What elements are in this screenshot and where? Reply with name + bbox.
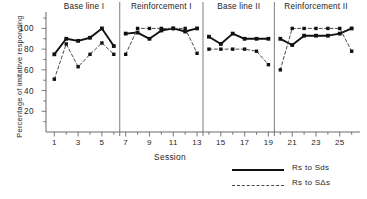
legend-entry-rs-to-sds: Rs to Sds — [232, 163, 364, 178]
data-point-marker — [279, 68, 282, 71]
data-point-marker — [124, 32, 128, 36]
series-line-rs-to-sdeltas — [209, 49, 268, 65]
data-point-marker — [136, 31, 140, 35]
data-point-marker — [160, 27, 163, 30]
data-point-marker — [207, 47, 210, 50]
data-point-marker — [148, 37, 152, 41]
phase-label: Base line I — [64, 2, 104, 11]
phase-label: Base line II — [217, 2, 260, 11]
data-point-marker — [267, 63, 270, 66]
data-point-marker — [302, 27, 305, 30]
data-point-marker — [53, 77, 56, 80]
data-point-marker — [100, 27, 104, 31]
data-point-marker — [88, 53, 91, 56]
data-point-marker — [207, 35, 211, 39]
phase-label: Reinforcement I — [131, 2, 192, 11]
data-point-marker — [100, 41, 103, 44]
data-point-marker — [231, 47, 234, 50]
chart-figure: Percentage of imitative responding 20406… — [0, 0, 367, 199]
legend-label-rs-to-sdeltas: Rs to SΔs — [292, 178, 330, 187]
data-point-marker — [183, 27, 186, 30]
data-point-marker — [290, 43, 294, 47]
legend-swatch-solid-line — [232, 169, 284, 174]
data-point-marker — [243, 37, 247, 41]
legend-label-rs-to-sds: Rs to Sds — [292, 163, 329, 172]
series-line-rs-to-sdeltas — [54, 43, 113, 79]
data-point-marker — [52, 52, 56, 56]
chart-legend: Rs to Sds Rs to SΔs — [232, 163, 364, 193]
data-point-marker — [172, 27, 175, 30]
data-point-marker — [148, 27, 151, 30]
data-point-marker — [195, 27, 199, 31]
data-point-marker — [338, 32, 342, 36]
data-point-marker — [291, 27, 294, 30]
data-point-marker — [314, 27, 317, 30]
legend-swatch-dashed-line — [232, 185, 284, 189]
data-point-marker — [302, 34, 306, 38]
data-point-marker — [255, 50, 258, 53]
data-point-marker — [195, 52, 198, 55]
data-point-marker — [314, 34, 318, 38]
legend-entry-rs-to-sdeltas: Rs to SΔs — [232, 178, 364, 193]
data-point-marker — [76, 65, 79, 68]
phase-label: Reinforcement II — [284, 2, 347, 11]
data-point-marker — [64, 37, 68, 41]
data-point-marker — [243, 47, 246, 50]
data-point-marker — [350, 27, 354, 31]
data-point-marker — [88, 36, 92, 40]
data-point-marker — [255, 37, 259, 41]
data-point-marker — [65, 42, 68, 45]
data-point-marker — [219, 47, 222, 50]
data-point-marker — [76, 39, 80, 43]
data-point-marker — [350, 50, 353, 53]
series-line-rs-to-sds — [54, 28, 113, 54]
data-point-marker — [219, 42, 223, 46]
data-point-marker — [112, 44, 116, 48]
data-point-marker — [136, 27, 139, 30]
data-point-marker — [338, 27, 341, 30]
data-point-marker — [326, 34, 330, 38]
data-point-marker — [124, 53, 127, 56]
series-line-rs-to-sds — [209, 34, 268, 44]
data-point-marker — [326, 27, 329, 30]
data-point-marker — [278, 37, 282, 41]
data-point-marker — [231, 32, 235, 36]
data-point-marker — [112, 53, 115, 56]
data-point-marker — [267, 37, 271, 41]
